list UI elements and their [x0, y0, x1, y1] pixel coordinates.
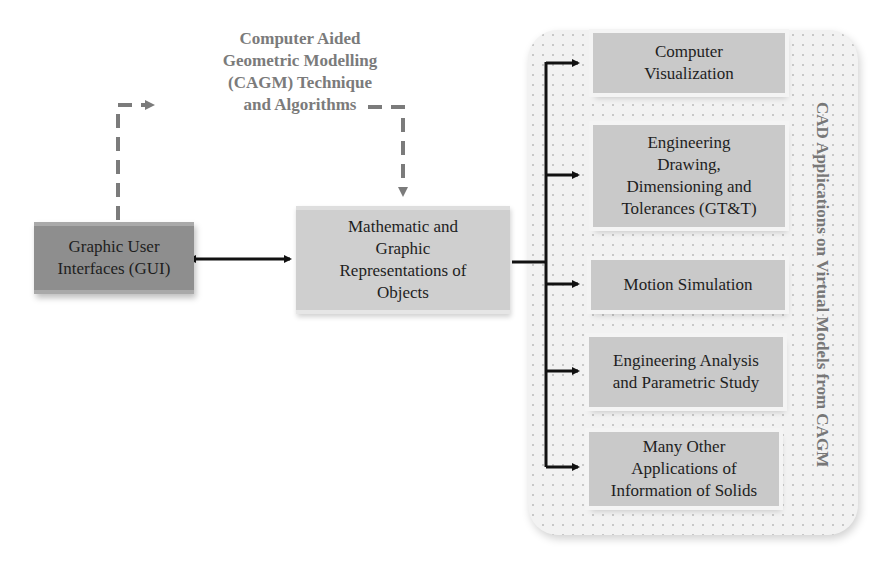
label-line: Computer Aided: [150, 28, 450, 50]
box-line: Graphic User: [58, 236, 171, 258]
box-line: Dimensioning and: [621, 176, 756, 198]
representation-box: Mathematic and Graphic Representations o…: [296, 206, 510, 314]
application-engineering-analysis: Engineering Analysis and Parametric Stud…: [589, 337, 783, 407]
application-motion-simulation: Motion Simulation: [591, 260, 785, 310]
panel-title-text: CAD Applications on Virtual Models from …: [812, 102, 832, 467]
box-line: Computer: [644, 41, 734, 63]
applications-panel-title: CAD Applications on Virtual Models from …: [792, 40, 852, 530]
cagm-technique-label: Computer Aided Geometric Modelling (CAGM…: [150, 28, 450, 116]
box-line: Engineering Analysis: [613, 350, 759, 372]
label-line: and Algorithms: [150, 94, 450, 116]
application-engineering-drawing: Engineering Drawing, Dimensioning and To…: [593, 125, 785, 227]
box-line: Drawing,: [621, 154, 756, 176]
box-line: Representations of: [340, 260, 467, 282]
label-line: (CAGM) Technique: [150, 72, 450, 94]
application-many-other: Many Other Applications of Information o…: [589, 432, 779, 506]
dashed-flow-arrow: [118, 105, 403, 220]
branch-connectors: [512, 62, 578, 467]
box-line: Applications of: [611, 458, 757, 480]
box-line: Many Other: [611, 436, 757, 458]
box-line: Graphic: [340, 238, 467, 260]
application-computer-visualization: Computer Visualization: [593, 33, 785, 93]
box-line: Information of Solids: [611, 480, 757, 502]
box-line: Tolerances (GT&T): [621, 198, 756, 220]
box-line: Interfaces (GUI): [58, 258, 171, 280]
box-line: Motion Simulation: [624, 274, 753, 296]
label-line: Geometric Modelling: [150, 50, 450, 72]
box-line: Engineering: [621, 132, 756, 154]
box-line: Objects: [340, 282, 467, 304]
box-line: and Parametric Study: [613, 372, 759, 394]
box-line: Visualization: [644, 63, 734, 85]
gui-box: Graphic User Interfaces (GUI): [34, 222, 194, 294]
box-line: Mathematic and: [340, 216, 467, 238]
